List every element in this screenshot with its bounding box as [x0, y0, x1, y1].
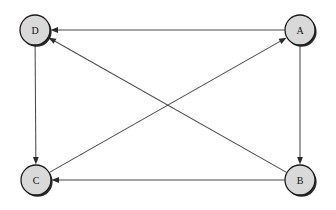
edge-line: [55, 41, 286, 172]
edge-d-to-c: [33, 46, 39, 165]
graph-node-a[interactable]: A: [285, 15, 317, 47]
graph-node-c[interactable]: C: [21, 165, 53, 197]
edge-line: [35, 46, 36, 158]
node-circle[interactable]: [20, 15, 50, 45]
arrowhead-icon: [297, 157, 303, 165]
arrowhead-icon: [33, 157, 39, 165]
arrowhead-icon: [51, 27, 59, 33]
node-circle[interactable]: [285, 15, 315, 45]
graph-svg: DACB: [0, 0, 336, 210]
node-circle[interactable]: [21, 165, 51, 195]
graph-node-b[interactable]: B: [285, 165, 317, 197]
directed-graph-canvas: DACB: [0, 0, 336, 210]
graph-node-d[interactable]: D: [20, 15, 52, 47]
edge-line: [49, 41, 280, 172]
arrowhead-icon: [279, 38, 287, 44]
edge-a-to-b: [297, 46, 303, 165]
node-circle[interactable]: [285, 165, 315, 195]
edge-layer: [33, 27, 303, 183]
arrowhead-icon: [52, 177, 60, 183]
edge-b-to-c: [52, 177, 285, 183]
edge-a-to-d: [51, 27, 285, 33]
